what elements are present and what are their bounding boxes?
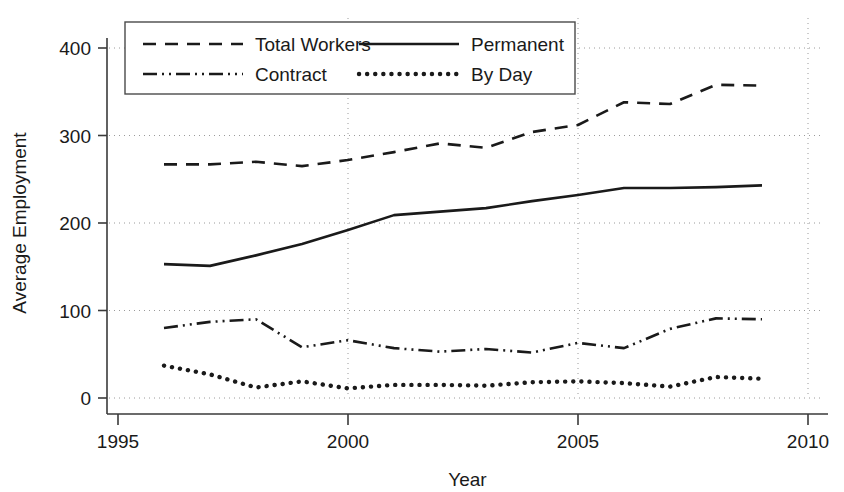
series-line-total-workers	[164, 85, 762, 166]
legend-label-by-day: By Day	[471, 64, 533, 85]
legend-label-contract: Contract	[255, 64, 328, 85]
legend-label-total-workers: Total Workers	[255, 34, 371, 55]
series-line-permanent	[164, 185, 762, 266]
y-tick-label: 200	[59, 213, 91, 234]
line-chart: 01002003004001995200020052010YearAverage…	[0, 0, 844, 492]
x-tick-label: 2000	[327, 431, 369, 452]
x-axis-title: Year	[448, 469, 487, 490]
y-tick-label: 400	[59, 38, 91, 59]
data-series	[164, 85, 762, 389]
x-tick-label: 1995	[97, 431, 139, 452]
y-tick-label: 0	[80, 388, 91, 409]
legend-label-permanent: Permanent	[471, 34, 565, 55]
axes: 01002003004001995200020052010YearAverage…	[9, 38, 829, 490]
x-tick-label: 2010	[787, 431, 829, 452]
series-line-by-day	[164, 366, 762, 389]
series-line-contract	[164, 318, 762, 352]
y-tick-label: 300	[59, 126, 91, 147]
y-tick-label: 100	[59, 301, 91, 322]
y-axis-title: Average Employment	[9, 132, 30, 314]
legend: Total WorkersPermanentContractBy Day	[125, 22, 575, 94]
chart-container: 01002003004001995200020052010YearAverage…	[0, 0, 844, 492]
x-tick-label: 2005	[557, 431, 599, 452]
